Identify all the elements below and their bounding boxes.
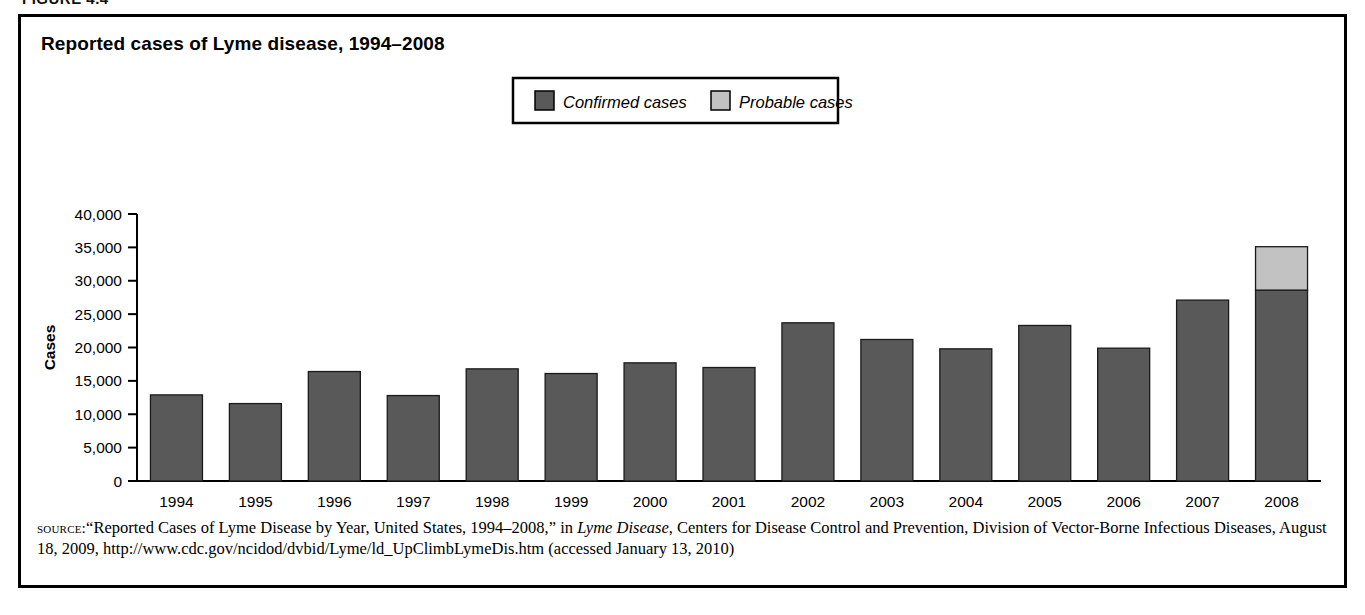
- y-axis-tick-label: 10,000: [75, 406, 123, 423]
- legend-label-confirmed: Confirmed cases: [563, 93, 687, 111]
- y-axis-tick-label: 35,000: [75, 239, 123, 256]
- bar-1995-confirmed: [229, 404, 281, 481]
- x-axis-tick-label: 1999: [554, 493, 588, 510]
- bar-2006-confirmed: [1098, 348, 1150, 481]
- x-axis-tick-label: 2000: [633, 493, 668, 510]
- bars-group: [150, 247, 1307, 481]
- legend-swatch-confirmed: [535, 91, 554, 110]
- bar-2002-confirmed: [782, 323, 834, 481]
- legend-swatch-probable: [711, 91, 730, 110]
- x-axis-tick-label: 2004: [949, 493, 984, 510]
- y-axis-tick-label: 15,000: [75, 372, 123, 389]
- y-axis: 40,00035,00030,00025,00020,00015,00010,0…: [41, 206, 137, 490]
- y-axis-tick-label: 5,000: [83, 439, 122, 456]
- y-axis-title: Cases: [41, 325, 58, 371]
- x-axis-tick-label: 1997: [396, 493, 430, 510]
- y-axis-tick-label: 20,000: [75, 339, 123, 356]
- x-axis-tick-label: 2007: [1185, 493, 1219, 510]
- source-publication-title: Lyme Disease: [577, 518, 669, 537]
- x-axis-tick-label: 1998: [475, 493, 509, 510]
- bar-2005-confirmed: [1019, 325, 1071, 481]
- bar-1998-confirmed: [466, 369, 518, 481]
- y-axis-tick-label: 30,000: [75, 272, 123, 289]
- bar-1994-confirmed: [150, 395, 202, 481]
- x-axis-tick-label: 2005: [1027, 493, 1061, 510]
- source-note: source:“Reported Cases of Lyme Disease b…: [37, 517, 1330, 559]
- figure-number-caption: FIGURE 4.4: [22, 0, 109, 4]
- source-label: source:: [37, 519, 86, 536]
- chart-legend: Confirmed casesProbable cases: [513, 78, 853, 123]
- bar-1999-confirmed: [545, 374, 597, 481]
- x-axis-tick-label: 2006: [1106, 493, 1140, 510]
- figure-page: FIGURE 4.4 Reported cases of Lyme diseas…: [0, 0, 1365, 615]
- bar-2003-confirmed: [861, 339, 913, 481]
- bar-2000-confirmed: [624, 363, 676, 481]
- y-axis-tick-label: 40,000: [75, 206, 123, 223]
- bar-2008-confirmed: [1256, 290, 1308, 481]
- x-axis-tick-label: 1995: [238, 493, 272, 510]
- lyme-disease-bar-chart: Confirmed casesProbable cases 40,00035,0…: [21, 65, 1344, 527]
- bar-1997-confirmed: [387, 396, 439, 481]
- figure-box: Reported cases of Lyme disease, 1994–200…: [18, 14, 1347, 588]
- x-axis-tick-label: 1996: [317, 493, 351, 510]
- bar-2007-confirmed: [1177, 300, 1229, 481]
- legend-label-probable: Probable cases: [739, 93, 853, 111]
- y-axis-tick-label: 0: [113, 473, 122, 490]
- x-axis-tick-label: 2002: [791, 493, 825, 510]
- x-axis-tick-label: 2003: [870, 493, 904, 510]
- x-axis: 1994199519961997199819992000200120022003…: [137, 481, 1321, 510]
- x-axis-tick-label: 2008: [1264, 493, 1298, 510]
- y-axis-tick-label: 25,000: [75, 306, 123, 323]
- bar-2008-probable: [1256, 247, 1308, 290]
- chart-area: Confirmed casesProbable cases 40,00035,0…: [21, 65, 1344, 527]
- x-axis-tick-label: 2001: [712, 493, 746, 510]
- bar-2004-confirmed: [940, 349, 992, 481]
- bar-2001-confirmed: [703, 368, 755, 481]
- x-axis-tick-label: 1994: [159, 493, 194, 510]
- bar-1996-confirmed: [308, 372, 360, 481]
- source-text-b: , Centers for Disease Control and Preven…: [669, 518, 1048, 537]
- source-text-a: “Reported Cases of Lyme Disease by Year,…: [86, 518, 577, 537]
- figure-title: Reported cases of Lyme disease, 1994–200…: [41, 33, 445, 55]
